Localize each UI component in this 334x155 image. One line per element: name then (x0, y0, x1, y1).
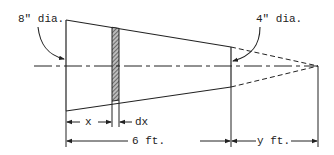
y-label: y ft. (256, 135, 291, 147)
small-end-leader-arrow (233, 27, 260, 61)
top-slant-edge (66, 20, 231, 47)
dx-label: dx (134, 116, 149, 128)
hatched-element (112, 27, 119, 101)
large-end-diameter-label: 8" dia. (17, 13, 65, 25)
large-end-leader-arrow (38, 27, 64, 59)
length-label: 6 ft. (131, 135, 166, 147)
small-end-diameter-label: 4" dia. (255, 13, 303, 25)
apex-extension-lines (231, 47, 318, 87)
x-label: x (84, 116, 93, 128)
frustum-diagram: 8" dia. 4" dia. x dx 6 ft. y ft. (0, 0, 334, 155)
bottom-slant-edge (66, 87, 231, 111)
